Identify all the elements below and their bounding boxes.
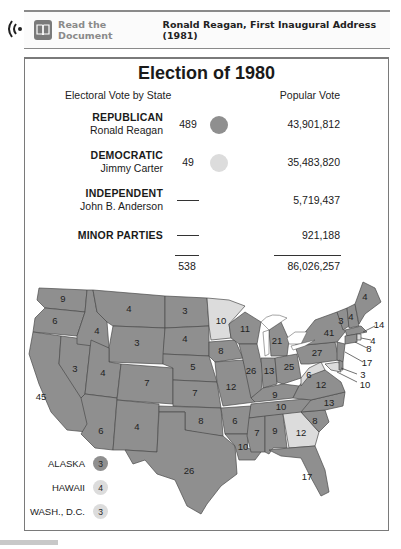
svg-text:26: 26 [184,465,195,476]
svg-text:3: 3 [182,305,187,316]
read-document-bar[interactable]: Read the Document Ronald Reagan, First I… [24,10,390,49]
svg-text:4: 4 [348,311,353,322]
state-fl [269,446,329,496]
inset-dc: WASH., D.C. 3 [25,504,108,519]
dc-chip: 3 [93,504,108,519]
svg-text:13: 13 [324,397,335,408]
svg-text:8: 8 [366,343,371,354]
svg-text:4: 4 [182,333,187,344]
svg-text:9: 9 [60,293,65,304]
svg-text:4: 4 [134,421,139,432]
democratic-swatch [210,154,228,172]
republican-swatch [210,116,228,134]
svg-text:17: 17 [302,471,313,482]
hawaii-chip: 4 [93,480,108,495]
popular-count: 921,188 [302,229,340,241]
svg-text:6: 6 [306,369,311,380]
candidate-name: Jimmy Carter [101,162,163,174]
party-row-independent: INDEPENDENT John B. Anderson 5,719,437 [25,187,388,217]
party-row-democratic: DEMOCRATIC Jimmy Carter 49 35,483,820 [25,149,388,179]
svg-text:10: 10 [216,315,227,326]
svg-text:10: 10 [360,379,371,390]
svg-text:14: 14 [374,319,385,330]
svg-text:21: 21 [272,335,283,346]
electoral-count: 49 [175,156,201,168]
electoral-count: 489 [175,118,201,130]
alaska-chip: 3 [93,456,108,471]
inset-hawaii: HAWAII 4 [25,480,108,495]
popular-count: 35,483,820 [287,156,340,168]
svg-text:26: 26 [246,365,257,376]
state-me [355,282,381,324]
party-label: REPUBLICAN [92,111,163,123]
state-az [81,394,117,450]
svg-text:6: 6 [98,425,103,436]
svg-text:17: 17 [362,357,373,368]
svg-text:9: 9 [272,389,277,400]
inset-label: HAWAII [25,482,85,493]
read-document-label[interactable]: Read the Document [58,19,154,41]
party-label: DEMOCRATIC [91,149,163,161]
inset-label: ALASKA [25,458,85,469]
svg-text:7: 7 [254,427,259,438]
svg-text:12: 12 [316,379,327,390]
no-electoral-dash [177,235,199,236]
party-label: INDEPENDENT [86,187,163,199]
svg-text:8: 8 [312,415,317,426]
svg-text:41: 41 [324,327,335,338]
svg-text:4: 4 [94,325,99,336]
horizontal-scrollbar[interactable] [0,540,58,545]
inset-label: WASH., D.C. [25,506,85,517]
popular-vote-header: Popular Vote [280,89,340,101]
svg-text:4: 4 [126,303,131,314]
svg-text:12: 12 [296,427,307,438]
svg-text:7: 7 [192,387,197,398]
state-ri [357,334,361,340]
svg-text:11: 11 [240,323,250,334]
svg-text:4: 4 [100,367,105,378]
svg-text:27: 27 [312,347,323,358]
svg-text:6: 6 [52,315,57,326]
popular-count: 43,901,812 [287,118,340,130]
open-book-icon [34,20,52,40]
election-figure: Election of 1980 Electoral Vote by State… [24,57,389,531]
svg-text:5: 5 [190,361,195,372]
inset-alaska: ALASKA 3 [25,456,108,471]
electoral-total-rule [175,255,199,256]
party-row-republican: REPUBLICAN Ronald Reagan 489 43,901,812 [25,111,388,141]
svg-text:4: 4 [362,291,367,302]
candidate-name: Ronald Reagan [90,124,163,136]
party-label: MINOR PARTIES [78,229,163,241]
no-electoral-dash [177,200,199,201]
svg-text:6: 6 [232,415,237,426]
svg-text:3: 3 [134,337,139,348]
svg-text:9: 9 [272,425,277,436]
state-md [325,362,341,372]
svg-text:7: 7 [144,377,149,388]
svg-text:25: 25 [284,361,295,372]
popular-total-rule [274,255,341,256]
candidate-name: John B. Anderson [80,200,163,212]
state-nj [337,342,345,362]
electoral-total: 538 [175,260,199,272]
svg-text:45: 45 [36,391,47,402]
electoral-vote-header: Electoral Vote by State [65,89,171,101]
svg-text:8: 8 [218,345,223,356]
svg-text:8: 8 [198,415,203,426]
state-or [33,308,85,336]
popular-count: 5,719,437 [293,194,340,206]
state-ct [345,334,357,344]
svg-text:3: 3 [338,315,343,326]
audio-speaker-icon[interactable] [4,18,26,40]
svg-text:3: 3 [72,363,77,374]
svg-text:12: 12 [226,381,237,392]
svg-text:10: 10 [238,441,249,452]
document-title-link[interactable]: Ronald Reagan, First Inaugural Address (… [163,19,390,41]
popular-total: 86,026,257 [287,260,340,272]
svg-text:13: 13 [264,365,275,376]
figure-title: Election of 1980 [25,63,388,84]
svg-text:10: 10 [276,401,287,412]
